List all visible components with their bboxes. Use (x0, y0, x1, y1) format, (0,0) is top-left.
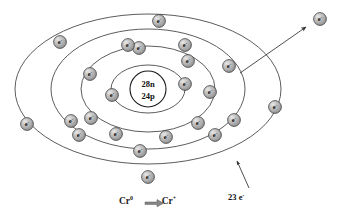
outer-shell-electron-count: 23 e- (228, 192, 244, 202)
electron-e9: e- (85, 112, 98, 125)
electron-e23: e- (269, 101, 282, 114)
electron-e18: e- (65, 115, 78, 128)
nucleus-group: 28n 24p (130, 71, 166, 107)
electron-e13: e- (223, 60, 236, 73)
electron-e15: e- (209, 129, 222, 142)
electron-e19: e- (153, 15, 166, 28)
caption-left-symbol: Cr (119, 196, 131, 206)
electrons-group: e-e-e-e-e-e-e-e-e-e-e-e-e-e-e-e-e-e-e-e-… (21, 13, 327, 184)
electron-e16: e- (134, 145, 147, 158)
caption-group: Cr0 Cr+ (119, 195, 177, 207)
electron-e5: e- (204, 86, 217, 99)
caption-right-species: Cr+ (162, 195, 177, 206)
bohr-model-svg: 28n 24p e-e-e-e-e-e-e-e-e-e-e-e-e-e-e-e-… (0, 0, 342, 218)
outer-shell-leader-line (237, 161, 249, 188)
annotation-unit-charge: - (242, 192, 244, 198)
electron-e11: e- (122, 39, 135, 52)
electron-e2: e- (179, 78, 192, 91)
electron-e22: e- (142, 171, 155, 184)
electron-e17: e- (73, 129, 86, 142)
electron-e4: e- (182, 55, 195, 68)
electron-e14: e- (228, 114, 241, 127)
caption-left-charge: 0 (130, 195, 133, 201)
electron-e1: e- (106, 89, 119, 102)
electron-e12: e- (179, 39, 192, 52)
electron-e8: e- (110, 128, 123, 141)
atomic-diagram-figure: 28n 24p e-e-e-e-e-e-e-e-e-e-e-e-e-e-e-e-… (0, 0, 342, 218)
nucleus-neutron-label: 28n (141, 79, 155, 89)
electron-e20: e- (54, 36, 67, 49)
nucleus-circle (130, 71, 166, 107)
electron-e7: e- (160, 131, 173, 144)
electron-e10: e- (84, 68, 97, 81)
electron-escaped: e- (314, 13, 327, 26)
caption-left-species: Cr0 (119, 195, 133, 206)
electron-e21: e- (21, 118, 34, 131)
electron-ejection-arrow (240, 27, 306, 73)
annotation-count: 23 (228, 192, 237, 202)
caption-right-symbol: Cr (162, 196, 174, 206)
caption-double-arrow-icon (145, 200, 164, 207)
nucleus-proton-label: 24p (141, 91, 155, 101)
caption-right-charge: + (173, 195, 177, 201)
electron-e6: e- (192, 117, 205, 130)
